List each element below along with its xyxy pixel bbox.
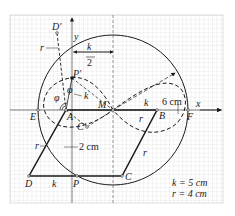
label-r-top: r xyxy=(40,42,44,53)
label-A: A xyxy=(66,111,74,122)
label-D: D xyxy=(24,178,33,189)
label-half-k-den: 2 xyxy=(87,57,92,68)
label-r-mid: r xyxy=(139,113,143,124)
label-F: F xyxy=(186,111,194,122)
label-M: M xyxy=(97,99,107,110)
point-B xyxy=(156,109,159,112)
label-Dprime: D′ xyxy=(51,21,62,32)
label-r-left: r xyxy=(35,140,39,151)
label-half-k-num: k xyxy=(87,41,92,52)
label-phi-1: φ xyxy=(54,92,60,103)
legend-r: r = 4 cm xyxy=(172,188,207,199)
label-x-axis: x xyxy=(195,98,201,109)
label-k-DP: k xyxy=(52,178,57,189)
label-phi-2: φ xyxy=(67,84,73,95)
point-C xyxy=(121,175,124,178)
legend-k: k = 5 cm xyxy=(172,177,207,188)
label-Pprime: P′ xyxy=(72,68,82,79)
label-B: B xyxy=(159,110,165,121)
label-6cm: 6 cm xyxy=(162,96,182,107)
label-E: E xyxy=(29,111,36,122)
label-C: C xyxy=(125,171,132,182)
label-Cprime: C′ xyxy=(77,121,87,132)
label-k-AM: k xyxy=(84,90,89,101)
point-Dprime xyxy=(56,32,59,35)
label-2cm: 2 cm xyxy=(79,141,99,152)
label-k-MB: k xyxy=(144,97,149,108)
point-Cprime xyxy=(86,126,89,129)
label-r-right: r xyxy=(143,147,147,158)
label-P: P xyxy=(72,178,79,189)
point-P xyxy=(76,175,79,178)
geometry-diagram: y x D′ P′ M E A B F C′ D P C k 2 6 cm 2 … xyxy=(0,0,235,216)
point-E xyxy=(37,109,40,112)
label-y-axis: y xyxy=(73,31,79,42)
point-M xyxy=(112,109,115,112)
point-D xyxy=(28,175,31,178)
